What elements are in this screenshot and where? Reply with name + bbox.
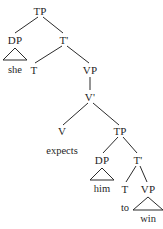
tree-node-vp1: VP <box>83 65 97 76</box>
constituent-triangle-she <box>3 48 27 60</box>
tree-edge-tp2-to-dp2 <box>103 137 118 153</box>
tree-edge-tp1-to-dp1 <box>15 17 38 33</box>
tree-node-vbar1: V' <box>85 92 95 103</box>
tree-terminal-she: she <box>8 65 22 76</box>
tree-edge-layer <box>0 0 163 229</box>
tree-node-tp2: TP <box>113 126 126 137</box>
tree-terminal-him: him <box>94 184 110 195</box>
constituent-triangle-win <box>133 197 163 210</box>
tree-edge-vbar1-to-tp2 <box>93 103 119 125</box>
tree-node-t2: T <box>122 184 129 195</box>
tree-node-tbar1: T' <box>59 35 68 46</box>
tree-edge-tbar2-to-vp2 <box>140 166 147 182</box>
tree-edge-vbar1-to-v1 <box>63 103 88 125</box>
tree-node-vp2: VP <box>141 184 155 195</box>
tree-node-t1: T <box>31 65 38 76</box>
tree-node-dp1: DP <box>8 35 22 46</box>
tree-node-v1: V <box>58 126 66 137</box>
tree-edge-tbar2-to-t2 <box>126 166 136 182</box>
tree-node-dp2: DP <box>95 155 109 166</box>
tree-terminal-expects: expects <box>46 146 78 157</box>
syntax-tree-diagram: TPDPsheT'TVPV'VexpectsTPDPhimT'TtoVPwin <box>0 0 163 229</box>
tree-edge-tp2-to-tbar2 <box>123 137 137 153</box>
constituent-triangle-him <box>90 168 114 180</box>
tree-edge-tp1-to-tbar1 <box>43 17 63 33</box>
tree-node-tp1: TP <box>33 6 46 17</box>
tree-terminal-win: win <box>140 214 156 225</box>
tree-terminal-to: to <box>121 203 129 214</box>
tree-edge-tbar1-to-t1 <box>35 46 62 63</box>
tree-edge-tbar1-to-vp1 <box>67 46 89 63</box>
tree-node-tbar2: T' <box>133 155 142 166</box>
